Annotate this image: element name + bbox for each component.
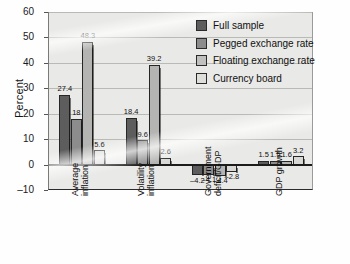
legend-item[interactable]: Full sample: [196, 20, 315, 31]
legend-label: Pegged exchange rate: [213, 38, 314, 49]
figure: 6050403020100–10 Percent 27.41848.35.618…: [0, 0, 350, 264]
legend-label: Floating exchange rate: [213, 55, 315, 66]
bar-value-label: 27.4: [54, 85, 75, 93]
legend-swatch: [196, 73, 207, 84]
legend-label: Full sample: [213, 20, 264, 31]
legend: Full samplePegged exchange rateFloating …: [196, 20, 315, 84]
y-axis-title: Percent: [13, 79, 25, 118]
legend-item[interactable]: Pegged exchange rate: [196, 38, 315, 49]
legend-item[interactable]: Floating exchange rate: [196, 55, 315, 66]
bar[interactable]: [94, 150, 105, 164]
bar[interactable]: [137, 140, 148, 164]
x-axis-label-line: inflation: [81, 163, 91, 196]
y-axis-tick-label: –10: [0, 185, 34, 195]
bar-value-label: 48.3: [77, 32, 98, 40]
bar[interactable]: [192, 165, 203, 176]
x-axis-label-line: Government: [204, 146, 214, 196]
x-axis-label-line: inflation: [147, 163, 157, 196]
x-axis-label: Averageinflation: [71, 163, 90, 196]
legend-item[interactable]: Currency board: [196, 73, 315, 84]
bar-value-label: 39.2: [144, 55, 165, 63]
x-axis-label-line: GDP growth: [275, 147, 285, 196]
bar[interactable]: [226, 165, 237, 172]
bar[interactable]: [59, 95, 70, 165]
bar[interactable]: [71, 119, 82, 165]
y-axis-tick-label: 0: [0, 160, 34, 170]
legend-swatch: [196, 20, 207, 31]
x-axis-label: Governmentdeficit/GDP: [204, 146, 223, 196]
bar-value-label: 18.4: [121, 108, 142, 116]
bar[interactable]: [126, 118, 137, 165]
x-axis-label-line: deficit/GDP: [213, 146, 223, 196]
x-axis-label: Volatilityinflation: [137, 163, 156, 196]
legend-swatch: [196, 55, 207, 66]
bar-value-label: 3.2: [288, 147, 309, 155]
legend-label: Currency board: [213, 73, 282, 84]
y-axis-tick-label: 50: [0, 32, 34, 42]
y-axis-tick-label: 40: [0, 58, 34, 68]
bar-value-label: 5.6: [89, 141, 110, 149]
y-axis-tick-mark: [44, 190, 48, 191]
x-axis-label: GDP growth: [275, 147, 285, 196]
y-axis-tick-label: 60: [0, 7, 34, 17]
y-axis-tick-label: 10: [0, 134, 34, 144]
bar-value-label: –2.8: [221, 173, 242, 181]
legend-swatch: [196, 38, 207, 49]
bar-value-label: 2.6: [155, 148, 176, 156]
